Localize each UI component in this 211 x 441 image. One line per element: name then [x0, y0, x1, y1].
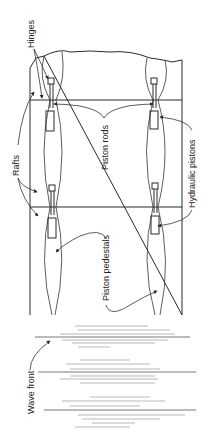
leader-wave-front	[30, 341, 50, 370]
raft-diagram: Hinges Rafts Piston rods Hydraulic pisto…	[0, 0, 211, 441]
leader-piston-rods	[54, 104, 153, 118]
label-piston-rods: Piston rods	[100, 124, 110, 170]
label-piston-pedestals: Piston pedestals	[101, 234, 111, 301]
label-rafts: Rafts	[11, 154, 21, 176]
hydraulic-piston-right-top	[150, 78, 158, 129]
label-wave-front: Wave front	[26, 370, 36, 414]
hydraulic-piston-left-top	[46, 78, 54, 131]
wave-front-lines	[35, 326, 196, 427]
label-hydraulic-pistons: Hydraulic pistons	[187, 139, 197, 208]
leader-rafts	[18, 92, 38, 216]
hydraulic-piston-right-bottom	[151, 183, 159, 234]
label-hinges: Hinges	[26, 19, 36, 48]
